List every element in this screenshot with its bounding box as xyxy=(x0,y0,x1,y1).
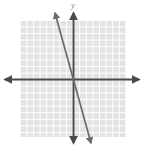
graph-canvas: y xyxy=(0,0,144,150)
coordinate-plane-figure: y xyxy=(0,0,144,150)
y-axis-label: y xyxy=(70,0,75,10)
